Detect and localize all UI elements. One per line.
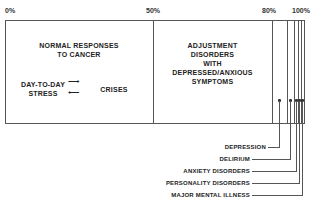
leader-major-v bbox=[302, 101, 303, 195]
leader-personality-h bbox=[252, 183, 300, 184]
legend-major-mental-illness: MAJOR MENTAL ILLNESS bbox=[140, 192, 250, 199]
normal-title-line1: NORMAL RESPONSES bbox=[5, 41, 153, 50]
crises-label: CRISES bbox=[94, 85, 134, 94]
daily-stress-label: DAY-TO-DAY STRESS bbox=[18, 80, 68, 98]
adjustment-line3: WITH bbox=[153, 59, 272, 68]
leader-depression-v bbox=[279, 101, 280, 147]
divider-delirium bbox=[294, 20, 295, 123]
normal-title-line2: TO CANCER bbox=[5, 50, 153, 59]
axis-label-50: 50% bbox=[146, 7, 160, 14]
legend-delirium: DELIRIUM bbox=[140, 156, 250, 163]
leader-delirium-h bbox=[252, 159, 291, 160]
leader-major-h bbox=[252, 195, 303, 196]
legend-anxiety-disorders: ANXIETY DISORDERS bbox=[140, 168, 250, 175]
adjustment-line2: DISORDERS bbox=[153, 50, 272, 59]
adjustment-line5: SYMPTOMS bbox=[153, 77, 272, 86]
legend-depression: DEPRESSION bbox=[160, 144, 266, 151]
leader-delirium-v bbox=[290, 101, 291, 159]
adjustment-line1: ADJUSTMENT bbox=[153, 41, 272, 50]
axis-label-100: 100% bbox=[292, 7, 310, 14]
adjustment-label: ADJUSTMENT DISORDERS WITH DEPRESSED/ANXI… bbox=[153, 41, 272, 86]
divider-80 bbox=[272, 20, 273, 123]
axis-label-80: 80% bbox=[262, 7, 276, 14]
adjustment-line4: DEPRESSED/ANXIOUS bbox=[153, 68, 272, 77]
leader-anxiety-v bbox=[296, 101, 297, 171]
daily-stress-line1: DAY-TO-DAY bbox=[18, 80, 68, 89]
axis-label-0: 0% bbox=[5, 7, 15, 14]
legend-personality-disorders: PERSONALITY DISORDERS bbox=[140, 180, 250, 187]
daily-stress-line2: STRESS bbox=[18, 89, 68, 98]
leader-personality-v bbox=[299, 101, 300, 183]
arrow-right-icon: ⟶ bbox=[68, 78, 79, 86]
leader-anxiety-h bbox=[252, 171, 297, 172]
divider-depression bbox=[287, 20, 288, 123]
leader-depression-h bbox=[268, 147, 280, 148]
arrow-left-icon: ⟵ bbox=[68, 89, 79, 97]
normal-title: NORMAL RESPONSES TO CANCER bbox=[5, 41, 153, 59]
